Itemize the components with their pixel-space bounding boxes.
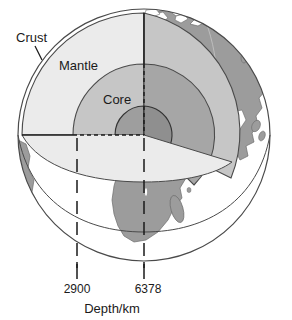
depth-tick-label-2900: 2900 <box>64 282 91 296</box>
label-crust: Crust <box>16 30 47 45</box>
land-lake-tanganyika <box>144 188 147 196</box>
depth-tick-label-6378: 6378 <box>135 282 162 296</box>
land-island-indian-ocean <box>187 187 191 192</box>
label-core: Core <box>103 92 131 107</box>
earth-diagram-svg: Crust Mantle Core 2900 6378 Depth/km <box>0 0 292 320</box>
crust-leader-line <box>35 46 42 60</box>
earth-structure-figure: Crust Mantle Core 2900 6378 Depth/km <box>0 0 292 320</box>
depth-axis-caption: Depth/km <box>84 301 140 316</box>
label-mantle: Mantle <box>59 58 98 73</box>
